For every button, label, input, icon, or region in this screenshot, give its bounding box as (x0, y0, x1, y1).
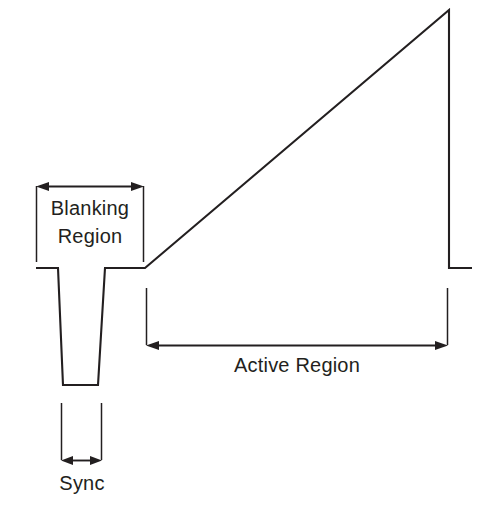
sync-label: Sync (59, 472, 104, 494)
diagram-canvas: Blanking Region Active Region Sync (0, 0, 494, 508)
blanking-region-label-line2: Region (58, 225, 123, 247)
sync-dimension: Sync (59, 403, 104, 494)
active-region-dimension: Active Region (146, 288, 448, 376)
active-region-label: Active Region (234, 354, 360, 376)
blanking-arrow-right-icon (131, 182, 144, 191)
active-arrow-left-icon (146, 341, 159, 350)
active-arrow-right-icon (435, 341, 448, 350)
sync-arrow-left-icon (61, 456, 73, 465)
sync-arrow-right-icon (90, 456, 102, 465)
blanking-arrow-left-icon (36, 182, 49, 191)
blanking-region-dimension: Blanking Region (36, 182, 144, 262)
waveform-diagram: Blanking Region Active Region Sync (0, 0, 494, 508)
blanking-region-label-line1: Blanking (51, 197, 129, 219)
